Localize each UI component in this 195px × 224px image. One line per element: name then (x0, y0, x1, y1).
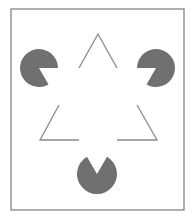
outline-corner-bottom-right (117, 105, 157, 140)
pacman-right (137, 49, 175, 87)
pacman-left (20, 49, 58, 87)
outline-triangle-group (40, 34, 157, 140)
outline-corner-bottom-left (40, 105, 79, 140)
kanizsa-figure (0, 0, 195, 224)
outline-corner-top-left (79, 34, 117, 68)
illusion-canvas (0, 0, 195, 224)
pacman-bottom (77, 157, 117, 194)
pacman-group (20, 49, 175, 194)
